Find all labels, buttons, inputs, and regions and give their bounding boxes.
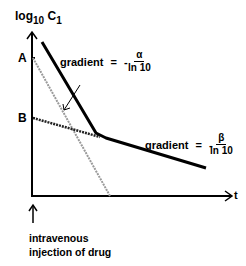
- y-label-sub1: 10: [33, 15, 44, 26]
- alpha-gradient-word: gradient: [60, 56, 103, 68]
- alpha-equals: =: [110, 56, 116, 68]
- y-axis-label: log10 C1: [15, 10, 62, 22]
- alpha-gradient-label: gradient = -: [60, 57, 128, 68]
- beta-equals: =: [195, 139, 201, 151]
- injection-label-line1: intravenous: [29, 233, 89, 244]
- beta-fraction: β ln 10: [210, 133, 233, 156]
- beta-numerator: β: [216, 133, 226, 145]
- alpha-pointer-line: [64, 85, 80, 110]
- alpha-denominator: ln 10: [128, 62, 151, 73]
- y-label-log: log: [15, 9, 33, 23]
- y-label-var: C: [47, 9, 56, 23]
- point-a-label: A: [18, 52, 27, 64]
- alpha-fraction: α ln 10: [128, 50, 151, 73]
- beta-denominator: ln 10: [210, 145, 233, 156]
- point-b-label: B: [18, 112, 27, 124]
- alpha-numerator: α: [134, 50, 144, 62]
- y-label-sub2: 1: [56, 15, 62, 26]
- injection-label-line2: injection of drug: [29, 247, 111, 258]
- beta-gradient-word: gradient: [145, 139, 188, 151]
- beta-gradient-label: gradient = -: [145, 140, 213, 151]
- x-axis-label: t: [234, 190, 238, 201]
- alpha-component-line: [33, 58, 110, 196]
- alpha-pointer-line-2: [80, 67, 85, 85]
